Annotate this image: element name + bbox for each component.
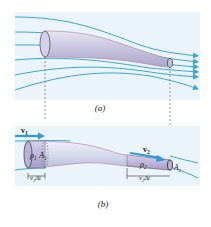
element-2-end-face: [168, 160, 173, 170]
inlet-cross-section: [40, 31, 50, 57]
caption-a: (a): [95, 103, 106, 113]
caption-b: (b): [98, 199, 109, 209]
flow-tube-diagram: (a) (b) v1 v2 ρ1 A1 ρ2 A2 v1Δt v2Δt: [0, 0, 211, 227]
outlet-cross-section: [168, 59, 173, 68]
